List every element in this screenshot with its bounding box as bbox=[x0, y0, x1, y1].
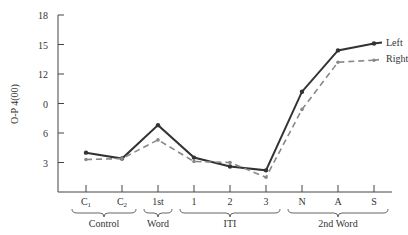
y-tick-label: 6 bbox=[43, 128, 48, 139]
data-point bbox=[264, 168, 268, 172]
data-point bbox=[264, 175, 268, 179]
data-point bbox=[192, 155, 196, 159]
group-brace bbox=[180, 209, 280, 217]
group-label: ITI bbox=[224, 218, 237, 229]
group-brace bbox=[288, 209, 388, 217]
data-point bbox=[156, 123, 160, 127]
data-point bbox=[156, 138, 160, 142]
y-tick-label: 3 bbox=[43, 158, 48, 169]
data-point bbox=[300, 108, 304, 112]
data-point bbox=[228, 164, 232, 168]
group-label: Control bbox=[89, 218, 120, 229]
y-tick-label: 0 bbox=[43, 99, 48, 110]
data-point bbox=[336, 60, 340, 64]
line-chart: 360121518O-P 4(00)C1C21st123NASControlWo… bbox=[0, 0, 408, 235]
x-tick-label: N bbox=[298, 196, 305, 207]
y-axis-label: O-P 4(00) bbox=[9, 84, 21, 124]
x-tick-label: A bbox=[334, 196, 342, 207]
data-point bbox=[84, 150, 88, 154]
data-point bbox=[84, 158, 88, 162]
legend-connector bbox=[374, 59, 382, 60]
legend-label-left: Left bbox=[386, 37, 403, 48]
group-label: Word bbox=[147, 218, 169, 229]
group-brace bbox=[72, 209, 136, 217]
data-point bbox=[300, 90, 304, 94]
series-line-right bbox=[86, 60, 374, 177]
x-tick-label: C2 bbox=[117, 196, 128, 209]
labels-layer: 360121518O-P 4(00)C1C21st123NASControlWo… bbox=[9, 10, 408, 229]
data-point bbox=[192, 160, 196, 164]
data-point bbox=[120, 157, 124, 161]
y-tick-label: 18 bbox=[38, 10, 48, 21]
x-tick-label: 1st bbox=[152, 196, 164, 207]
series-line-left bbox=[86, 44, 374, 171]
x-tick-label: C1 bbox=[81, 196, 92, 209]
y-tick-label: 15 bbox=[38, 40, 48, 51]
group-brace bbox=[144, 209, 172, 217]
x-tick-label: 2 bbox=[228, 196, 233, 207]
x-tick-label: S bbox=[371, 196, 377, 207]
group-label: 2nd Word bbox=[318, 218, 357, 229]
data-point bbox=[336, 48, 340, 52]
legend-connector bbox=[374, 43, 382, 44]
data-point bbox=[228, 161, 232, 165]
chart-canvas: 360121518O-P 4(00)C1C21st123NASControlWo… bbox=[0, 0, 408, 235]
y-tick-label: 12 bbox=[38, 69, 48, 80]
legend-label-right: Right bbox=[386, 53, 408, 64]
x-tick-label: 1 bbox=[192, 196, 197, 207]
x-tick-label: 3 bbox=[264, 196, 269, 207]
series-layer bbox=[84, 41, 382, 179]
axes bbox=[58, 15, 392, 217]
